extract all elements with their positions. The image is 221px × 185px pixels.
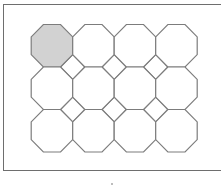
caption-mark (111, 183, 113, 185)
octagon-tile (73, 25, 115, 68)
octagon-tile (156, 67, 198, 110)
octagon-tiling (0, 0, 221, 185)
octagon-tile (31, 67, 72, 110)
octagon-tile (73, 110, 115, 153)
octagon-tile (156, 110, 198, 153)
octagon-tile (156, 25, 198, 68)
highlighted-octagon-tile (31, 25, 72, 68)
octagon-tile (114, 25, 156, 68)
octagon-tile (114, 110, 156, 153)
octagon-tile (114, 67, 156, 110)
octagon-tile (31, 110, 72, 153)
octagon-tile (73, 67, 115, 110)
